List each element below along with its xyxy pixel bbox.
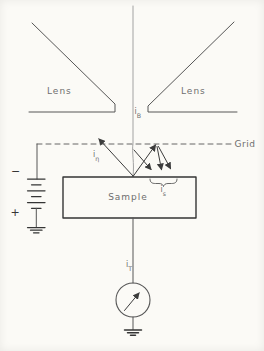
battery-minus-label: − — [11, 165, 20, 178]
backscatter-current-label: iη — [93, 150, 99, 163]
secondary-current-brace — [150, 179, 177, 187]
electron-beam-line — [133, 6, 134, 177]
right-lens-shape — [148, 22, 237, 112]
secondary-electron-arrows — [133, 145, 171, 177]
left-lens-label: Lens — [47, 86, 72, 96]
figure-canvas: Lens Lens iB Grid − + Sample iη is iT — [0, 0, 264, 351]
schematic-diagram: Lens Lens iB Grid − + Sample iη is iT — [0, 0, 264, 351]
grid-label: Grid — [235, 139, 256, 149]
sample-label: Sample — [108, 192, 148, 202]
right-lens-label: Lens — [181, 86, 206, 96]
left-lens-shape — [29, 23, 115, 112]
ground-symbol-meter — [125, 330, 142, 335]
battery-symbol — [28, 179, 46, 208]
beam-current-label: iB — [135, 107, 142, 119]
backscatter-arrow — [99, 139, 133, 176]
battery-plus-label: + — [11, 206, 20, 219]
ground-symbol-battery — [28, 228, 46, 233]
target-current-label: iT — [126, 260, 132, 272]
meter-needle-icon — [125, 293, 140, 311]
